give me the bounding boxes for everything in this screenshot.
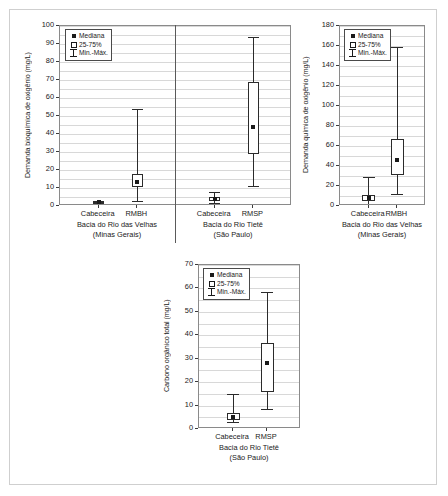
chart-legend: Mediana25-75%Min.-Máx. bbox=[65, 29, 112, 61]
legend-label-median: Mediana bbox=[79, 32, 104, 41]
legend-key bbox=[347, 49, 358, 58]
whisker-cap-max bbox=[391, 47, 403, 48]
y-tick-mark bbox=[56, 187, 59, 188]
y-tick-label: 10 bbox=[171, 401, 193, 408]
y-tick-label: 0 bbox=[312, 201, 334, 208]
y-tick-label: 90 bbox=[32, 39, 54, 46]
legend-label-minmax: Min.-Máx. bbox=[217, 288, 246, 297]
whisker-cap-min bbox=[391, 194, 403, 195]
legend-row: Mediana bbox=[68, 32, 108, 41]
x-tick-mark bbox=[136, 205, 137, 208]
y-tick-label: 80 bbox=[312, 121, 334, 128]
y-tick-mark bbox=[56, 97, 59, 98]
x-tick-mark bbox=[396, 205, 397, 208]
legend-label-iqr: 25-75% bbox=[217, 280, 240, 289]
y-tick-mark bbox=[336, 85, 339, 86]
y-tick-mark bbox=[336, 205, 339, 206]
legend-key bbox=[68, 32, 79, 41]
median-marker bbox=[395, 158, 399, 162]
whisker-cap-min bbox=[363, 204, 375, 205]
y-tick-mark bbox=[56, 61, 59, 62]
legend-label-minmax: Min.-Máx. bbox=[79, 49, 108, 58]
x-tick-label: RMBH bbox=[102, 210, 170, 217]
y-tick-mark bbox=[195, 287, 198, 288]
legend-key-iqr bbox=[350, 42, 356, 48]
median-marker bbox=[265, 361, 269, 365]
y-tick-label: 20 bbox=[312, 181, 334, 188]
legend-key bbox=[347, 32, 358, 41]
legend-mm-bottom bbox=[70, 56, 77, 57]
x-tick-mark bbox=[98, 205, 99, 208]
y-tick-mark bbox=[336, 65, 339, 66]
legend-row: Min.-Máx. bbox=[68, 49, 108, 58]
y-tick-mark bbox=[336, 165, 339, 166]
y-tick-label: 120 bbox=[312, 81, 334, 88]
chart-legend: Mediana25-75%Min.-Máx. bbox=[203, 268, 250, 300]
y-tick-mark bbox=[195, 428, 198, 429]
y-tick-mark bbox=[56, 43, 59, 44]
legend-row: 25-75% bbox=[68, 41, 108, 50]
y-tick-mark bbox=[336, 105, 339, 106]
chart-legend: Mediana25-75%Min.-Máx. bbox=[344, 29, 391, 61]
y-tick-mark bbox=[195, 358, 198, 359]
group-caption: (São Paulo) bbox=[163, 230, 303, 240]
y-tick-label: 40 bbox=[32, 129, 54, 136]
legend-key bbox=[206, 288, 217, 297]
legend-row: Mediana bbox=[206, 271, 246, 280]
y-tick-label: 160 bbox=[312, 41, 334, 48]
legend-key-median bbox=[72, 34, 76, 38]
legend-row: Min.-Máx. bbox=[206, 288, 246, 297]
legend-label-minmax: Min.-Máx. bbox=[358, 49, 387, 58]
legend-label-iqr: 25-75% bbox=[79, 41, 102, 50]
legend-row: 25-75% bbox=[347, 41, 387, 50]
y-tick-label: 180 bbox=[312, 21, 334, 28]
axis-label-y: Demanda química de oxigênio (mg/L) bbox=[301, 25, 311, 205]
x-tick-mark bbox=[252, 205, 253, 208]
y-tick-mark bbox=[336, 185, 339, 186]
group-caption: Bacia do Rio Tietê bbox=[163, 220, 303, 230]
y-tick-mark bbox=[56, 115, 59, 116]
y-tick-mark bbox=[336, 125, 339, 126]
chart-panel-dbo: Demanda bioquímica de oxigênio (mg/L)010… bbox=[19, 19, 295, 249]
whisker-cap-min bbox=[248, 186, 259, 187]
group-caption: (Minas Gerais) bbox=[312, 230, 448, 240]
y-tick-label: 80 bbox=[32, 57, 54, 64]
legend-row: Min.-Máx. bbox=[347, 49, 387, 58]
legend-key-median bbox=[210, 273, 214, 277]
y-tick-label: 0 bbox=[32, 201, 54, 208]
legend-row: 25-75% bbox=[206, 280, 246, 289]
group-divider bbox=[175, 25, 176, 243]
y-tick-mark bbox=[336, 45, 339, 46]
y-tick-mark bbox=[56, 151, 59, 152]
y-tick-label: 30 bbox=[171, 354, 193, 361]
x-tick-label: RMBH bbox=[362, 210, 430, 217]
y-tick-label: 140 bbox=[312, 61, 334, 68]
whisker-cap-max bbox=[261, 292, 273, 293]
legend-key-iqr bbox=[209, 281, 215, 287]
y-tick-mark bbox=[195, 381, 198, 382]
legend-key bbox=[68, 49, 79, 58]
median-marker bbox=[251, 125, 255, 129]
y-tick-mark bbox=[336, 145, 339, 146]
legend-row: Mediana bbox=[347, 32, 387, 41]
legend-key-iqr bbox=[71, 42, 77, 48]
legend-label-median: Mediana bbox=[358, 32, 383, 41]
x-tick-mark bbox=[232, 428, 233, 431]
box-iqr bbox=[391, 139, 404, 175]
y-tick-label: 30 bbox=[32, 147, 54, 154]
group-caption: (São Paulo) bbox=[179, 453, 319, 463]
y-tick-label: 60 bbox=[32, 93, 54, 100]
legend-key-median bbox=[351, 34, 355, 38]
legend-key-minmax bbox=[349, 49, 356, 57]
group-caption: Bacia do Rio Tietê bbox=[179, 443, 319, 453]
y-tick-label: 70 bbox=[32, 75, 54, 82]
y-tick-label: 70 bbox=[171, 260, 193, 267]
y-tick-label: 100 bbox=[32, 21, 54, 28]
y-tick-mark bbox=[195, 311, 198, 312]
x-tick-mark bbox=[368, 205, 369, 208]
y-tick-label: 10 bbox=[32, 183, 54, 190]
x-tick-mark bbox=[214, 205, 215, 208]
legend-key-minmax bbox=[208, 288, 215, 296]
x-tick-label: RMSP bbox=[218, 210, 286, 217]
legend-key bbox=[347, 41, 358, 50]
